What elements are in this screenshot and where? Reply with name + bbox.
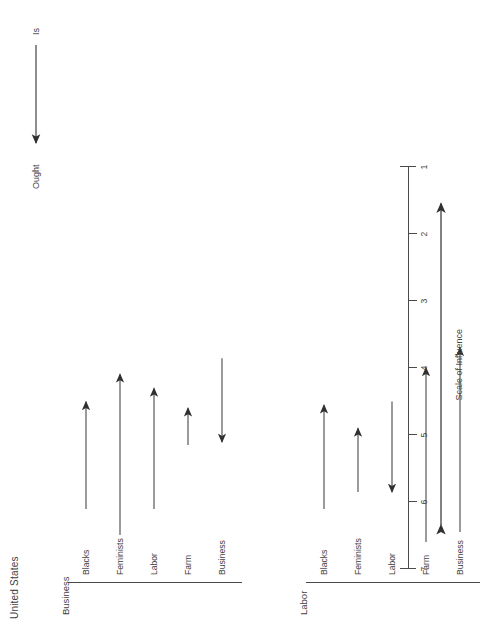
legend-to-label: Ought: [31, 164, 41, 189]
axis-title: Scale of Influence: [454, 329, 464, 401]
axis-tick: [408, 367, 417, 368]
axis-tick-label: 5: [419, 433, 429, 438]
legend-from-label: Is: [31, 28, 41, 35]
influence-arrow: [114, 365, 126, 546]
influence-arrow: [420, 358, 432, 552]
axis-tick-label: 7: [419, 567, 429, 572]
category-label: Labor: [387, 553, 397, 575]
influence-arrow: [318, 395, 330, 519]
category-label: Blacks: [81, 550, 91, 575]
axis-tick: [408, 501, 417, 502]
influence-arrow: [216, 348, 228, 452]
axis-tick-label: 6: [419, 500, 429, 505]
panel-title: Labor: [298, 591, 309, 615]
category-label: Blacks: [319, 550, 329, 575]
axis-tick-label: 2: [419, 232, 429, 237]
category-label: Business: [455, 540, 465, 575]
axis-tick: [408, 300, 417, 301]
axis-tick-label: 1: [419, 165, 429, 170]
panel-labor: LaborBusinessFarmLaborFeministsBlacks: [300, 0, 484, 627]
scale-direction-arrow: [434, 192, 452, 538]
axis-line: [408, 167, 409, 569]
influence-arrow: [148, 378, 160, 519]
axis-tick: [408, 233, 417, 234]
category-label: Feminists: [353, 538, 363, 575]
panel-divider: [306, 582, 480, 583]
category-label: Business: [217, 540, 227, 575]
axis-end-cap: [400, 568, 408, 569]
panel-business: BusinessBusinessFarmLaborFeministsBlacks: [62, 0, 256, 627]
axis-tick: [408, 434, 417, 435]
axis-tick-label: 4: [419, 366, 429, 371]
axis-tick: [408, 166, 416, 167]
axis-tick: [408, 568, 416, 569]
influence-arrow: [182, 398, 194, 455]
influence-arrow: [352, 418, 364, 502]
axis-tick-label: 3: [419, 299, 429, 304]
influence-arrow: [80, 392, 92, 519]
category-label: Labor: [149, 553, 159, 575]
influence-arrow: [386, 392, 398, 502]
category-label: Farm: [421, 555, 431, 575]
axis-end-cap: [400, 166, 408, 167]
legend-arrow-icon: [28, 37, 44, 157]
category-label: Farm: [183, 555, 193, 575]
panel-divider: [68, 582, 242, 583]
